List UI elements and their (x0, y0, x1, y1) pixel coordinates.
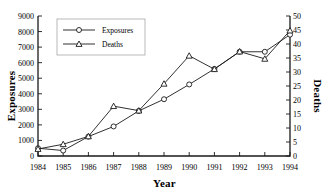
data-point-circle (262, 49, 267, 54)
data-point-circle (61, 148, 66, 153)
data-point-circle (162, 97, 167, 102)
plot-area: ExposuresDeaths (0, 0, 329, 191)
data-point-triangle (186, 53, 192, 58)
data-point-circle (111, 124, 116, 129)
data-point-circle (77, 28, 82, 33)
chart-container: Exposures Deaths Year 010002000300040005… (0, 0, 329, 191)
legend-label: Exposures (102, 26, 133, 35)
legend-label: Deaths (102, 40, 123, 49)
data-point-circle (187, 82, 192, 87)
data-point-triangle (111, 103, 117, 108)
legend: ExposuresDeaths (57, 19, 145, 55)
